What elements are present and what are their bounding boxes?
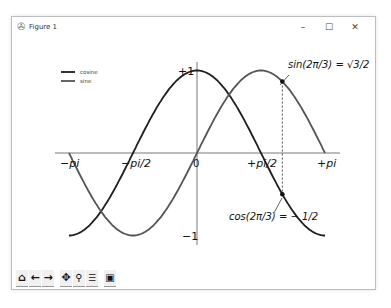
cos-annotation: cos(2π/3) = − 1/2 bbox=[229, 211, 318, 222]
xtick-neg-pi: −pi bbox=[60, 157, 79, 170]
cos-point-marker bbox=[280, 192, 285, 197]
xtick-pi-half: +pi/2 bbox=[247, 157, 277, 170]
legend-cosine-label: cosine bbox=[80, 69, 98, 75]
sin-point-marker bbox=[280, 79, 285, 84]
ytick-plus-one: +1 bbox=[178, 65, 194, 78]
ytick-minus-one: −1 bbox=[182, 230, 198, 243]
xtick-neg-pi-half: −pi/2 bbox=[121, 157, 151, 170]
xtick-zero: 0 bbox=[193, 158, 199, 169]
xtick-pi: +pi bbox=[317, 157, 336, 170]
plot-area[interactable]: −pi −pi/2 0 +pi/2 +pi +1 −1 sin(2π/3) = … bbox=[0, 0, 391, 308]
legend-sine-label: sine bbox=[80, 78, 92, 84]
sin-annotation: sin(2π/3) = √3/2 bbox=[288, 59, 369, 70]
